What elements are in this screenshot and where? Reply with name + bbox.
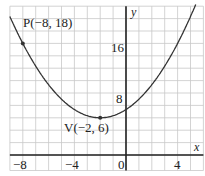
y-tick-8: 8 (116, 91, 123, 106)
origin-label: 0 (118, 157, 125, 172)
point-p-label: P(−8, 18) (23, 15, 72, 30)
x-tick-m4: −4 (65, 157, 79, 172)
grid (10, 6, 204, 170)
point-p (21, 41, 25, 45)
x-tick-m8: −8 (13, 157, 27, 172)
x-tick-4: 4 (174, 157, 181, 172)
parabola-graph: P(−8, 18) V(−2, 6) 16 8 y x −8 −4 0 4 (0, 0, 205, 176)
point-v-label: V(−2, 6) (64, 120, 109, 135)
y-axis-label: y (130, 5, 137, 19)
y-tick-16: 16 (111, 40, 125, 55)
x-axis-label: x (193, 140, 200, 154)
